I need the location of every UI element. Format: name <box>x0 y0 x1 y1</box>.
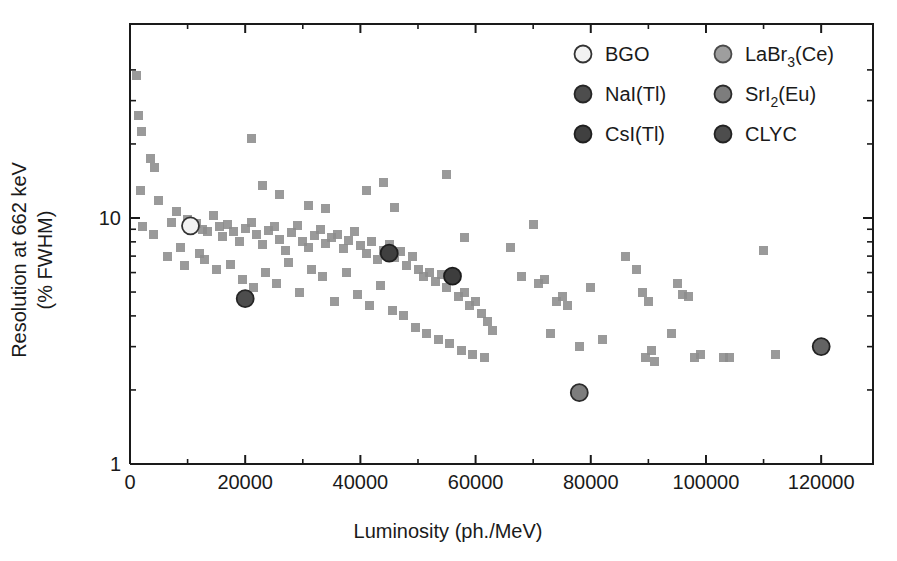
data-point-square <box>154 196 163 205</box>
data-point-square <box>350 227 359 236</box>
x-tick-label: 80000 <box>563 471 619 493</box>
data-point-square <box>759 246 768 255</box>
data-point-square <box>258 181 267 190</box>
data-point-square <box>457 346 466 355</box>
scatter-plot-figure: 020000400006000080000100000120000 110 BG… <box>0 0 897 561</box>
data-point-square <box>434 335 443 344</box>
data-point-square <box>650 357 659 366</box>
data-point-square <box>598 335 607 344</box>
legend-label-labr3: LaBr3(Ce) <box>745 43 834 70</box>
data-point-square <box>673 279 682 288</box>
legend-marker-sri2[interactable] <box>715 86 732 103</box>
data-point-square <box>468 350 477 359</box>
data-point-square <box>442 170 451 179</box>
data-point-square <box>330 297 339 306</box>
data-point-square <box>275 235 284 244</box>
legend-marker-nai[interactable] <box>575 86 592 103</box>
data-point-square <box>362 186 371 195</box>
data-point-square <box>321 204 330 213</box>
data-point-square <box>422 329 431 338</box>
data-point-square <box>529 220 538 229</box>
data-point-square <box>270 222 279 231</box>
legend-marker-labr3[interactable] <box>715 46 732 63</box>
y-tick-label: 10 <box>99 207 121 229</box>
data-point-square <box>376 281 385 290</box>
data-point-square <box>365 301 374 310</box>
data-point-square <box>402 261 411 270</box>
legend-label-clyc: CLYC <box>745 123 797 145</box>
data-point-square <box>339 244 348 253</box>
legend-label-bgo: BGO <box>605 43 649 65</box>
x-tick-label: 100000 <box>673 471 740 493</box>
data-point-square <box>517 272 526 281</box>
highlighted-point-clyc <box>813 338 830 355</box>
data-point-square <box>316 225 325 234</box>
data-point-square <box>362 249 371 258</box>
data-point-square <box>304 201 313 210</box>
data-point-square <box>247 218 256 227</box>
data-point-square <box>471 297 480 306</box>
legend-marker-bgo[interactable] <box>575 46 592 63</box>
data-point-square <box>275 190 284 199</box>
data-point-square <box>632 265 641 274</box>
data-point-square <box>540 275 549 284</box>
data-point-square <box>667 329 676 338</box>
data-point-square <box>146 154 155 163</box>
highlighted-point-csi-tl <box>381 245 398 262</box>
data-point-square <box>132 71 141 80</box>
data-point-square <box>696 350 705 359</box>
data-point-square <box>167 218 176 227</box>
data-point-square <box>771 350 780 359</box>
data-point-square <box>176 243 185 252</box>
data-point-square <box>480 353 489 362</box>
data-point-square <box>390 203 399 212</box>
legend-marker-csi[interactable] <box>575 126 592 143</box>
data-point-square <box>172 207 181 216</box>
data-point-square <box>408 252 417 261</box>
data-point-square <box>258 240 267 249</box>
data-point-square <box>411 323 420 332</box>
data-point-square <box>586 283 595 292</box>
data-point-square <box>460 288 469 297</box>
legend-marker-clyc[interactable] <box>715 126 732 143</box>
data-point-square <box>488 326 497 335</box>
x-tick-label: 20000 <box>217 471 273 493</box>
chart-canvas: 020000400006000080000100000120000 110 BG… <box>0 0 897 561</box>
data-point-square <box>235 237 244 246</box>
data-point-square <box>563 301 572 310</box>
data-point-square <box>212 265 221 274</box>
legend-label-csi: CsI(Tl) <box>605 123 665 145</box>
data-point-square <box>149 230 158 239</box>
data-point-square <box>281 246 290 255</box>
data-point-square <box>203 227 212 236</box>
data-point-square <box>209 211 218 220</box>
data-point-square <box>229 227 238 236</box>
data-point-square <box>506 243 515 252</box>
data-point-square <box>575 342 584 351</box>
y-axis-tick-labels: 110 <box>99 207 121 475</box>
data-point-square <box>272 279 281 288</box>
data-point-square <box>344 236 353 245</box>
y-tick-label: 1 <box>110 453 121 475</box>
data-point-square <box>333 230 342 239</box>
highlighted-point-nai-tl <box>237 290 254 307</box>
data-point-square <box>477 309 486 318</box>
y-axis-title-line2: (% FWHM) <box>34 211 56 310</box>
data-point-square <box>226 260 235 269</box>
data-point-square <box>644 297 653 306</box>
data-point-square <box>295 288 304 297</box>
y-axis-title-line1: Resolution at 662 keV <box>8 162 30 358</box>
data-point-square <box>218 232 227 241</box>
highlighted-point-bgo <box>182 217 199 234</box>
data-point-square <box>460 233 469 242</box>
legend: BGONaI(Tl)CsI(Tl)LaBr3(Ce)SrI2(Eu)CLYC <box>575 43 834 145</box>
data-point-square <box>445 339 454 348</box>
x-tick-label: 60000 <box>448 471 504 493</box>
data-point-square <box>137 127 146 136</box>
data-point-square <box>638 288 647 297</box>
data-point-square <box>353 290 362 299</box>
data-point-square <box>621 252 630 261</box>
x-tick-label: 0 <box>124 471 135 493</box>
data-point-square <box>247 134 256 143</box>
data-point-square <box>684 292 693 301</box>
